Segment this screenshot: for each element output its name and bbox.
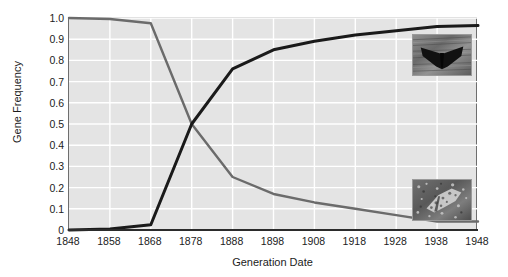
y-axis-tick-label: 0.5: [2, 119, 64, 130]
light-moth-image: [413, 180, 471, 220]
light-moth-photo: [412, 179, 472, 221]
y-axis-tick-label: 0.7: [2, 77, 64, 88]
x-axis-tick-label: 1898: [261, 236, 284, 247]
x-axis-tick-label: 1948: [465, 236, 488, 247]
y-axis-tick-labels: 00.10.20.30.40.50.60.70.80.91.0: [0, 0, 64, 277]
x-axis-tick-label: 1938: [424, 236, 447, 247]
x-axis-tick-label: 1878: [179, 236, 202, 247]
y-axis-tick-label: 0.9: [2, 34, 64, 45]
y-axis-tick-label: 0: [2, 225, 64, 236]
x-axis-tick-label: 1888: [220, 236, 243, 247]
x-axis-tick-label: 1868: [138, 236, 161, 247]
x-axis-tick-label: 1918: [343, 236, 366, 247]
y-axis-tick-label: 0.4: [2, 140, 64, 151]
gene-frequency-chart: Gene Frequency 00.10.20.30.40.50.60.70.8…: [0, 0, 508, 277]
x-axis-title: Generation Date: [68, 256, 477, 268]
dark-moth-image: [413, 35, 471, 75]
plot-bottom-rule: [68, 229, 478, 231]
y-axis-tick-label: 1.0: [2, 13, 64, 24]
x-axis-tick-label: 1908: [302, 236, 325, 247]
y-axis-tick-label: 0.1: [2, 204, 64, 215]
y-axis-tick-label: 0.8: [2, 55, 64, 66]
y-axis-tick-label: 0.2: [2, 183, 64, 194]
x-axis-tick-label: 1928: [384, 236, 407, 247]
y-axis-tick-label: 0.6: [2, 98, 64, 109]
y-axis-tick-label: 0.3: [2, 161, 64, 172]
x-axis-tick-label: 1858: [97, 236, 120, 247]
x-axis-tick-label: 1848: [56, 236, 79, 247]
dark-moth-photo: [412, 34, 472, 76]
